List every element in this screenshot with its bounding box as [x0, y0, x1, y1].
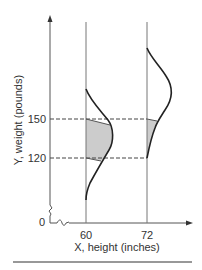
x-axis-label: X, height (inches): [74, 241, 160, 253]
x-axis-arrow-icon: [186, 221, 193, 226]
shaded-area-60: [86, 119, 112, 161]
diagram-canvas: 150 120 0 60 72 X, height (inches) Y, we…: [0, 0, 202, 270]
y-tick-150: 150: [28, 113, 46, 125]
y-axis-label: Y, weight (pounds): [12, 75, 24, 165]
x-tick-60: 60: [80, 229, 92, 241]
y-tick-120: 120: [28, 152, 46, 164]
x-axis-break-icon: [57, 220, 69, 225]
origin-label: 0: [39, 216, 45, 228]
y-axis-arrow-icon: [48, 15, 53, 22]
y-axis-break-icon: [49, 205, 52, 216]
distribution-curve-72: [147, 48, 171, 158]
x-tick-72: 72: [141, 229, 153, 241]
